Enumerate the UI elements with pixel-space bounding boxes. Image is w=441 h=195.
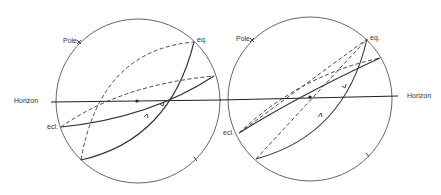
left-ecliptic-label: ecl. (47, 123, 58, 130)
right-horizon-label: Horizon (407, 92, 431, 99)
left-pole-label: Pole (63, 37, 77, 44)
left-horizon-label: Horizon (14, 97, 38, 104)
left-equator-label: eq. (197, 36, 207, 43)
right-equator-label: eq. (370, 34, 380, 41)
right-pole-label: Pole (236, 35, 250, 42)
right-direction-arrow (318, 113, 322, 117)
right-observer-dot (308, 95, 311, 98)
right-ecliptic-label: ecl. (223, 129, 234, 136)
right-south-tick (366, 153, 369, 157)
left-direction-arrow (144, 114, 148, 118)
left-observer-dot (135, 99, 138, 102)
left-pole-tick (77, 40, 81, 44)
diagram-canvas (0, 0, 441, 195)
right-equinox-arrow (342, 84, 346, 88)
right-ecliptic-equator-chord (239, 39, 367, 133)
